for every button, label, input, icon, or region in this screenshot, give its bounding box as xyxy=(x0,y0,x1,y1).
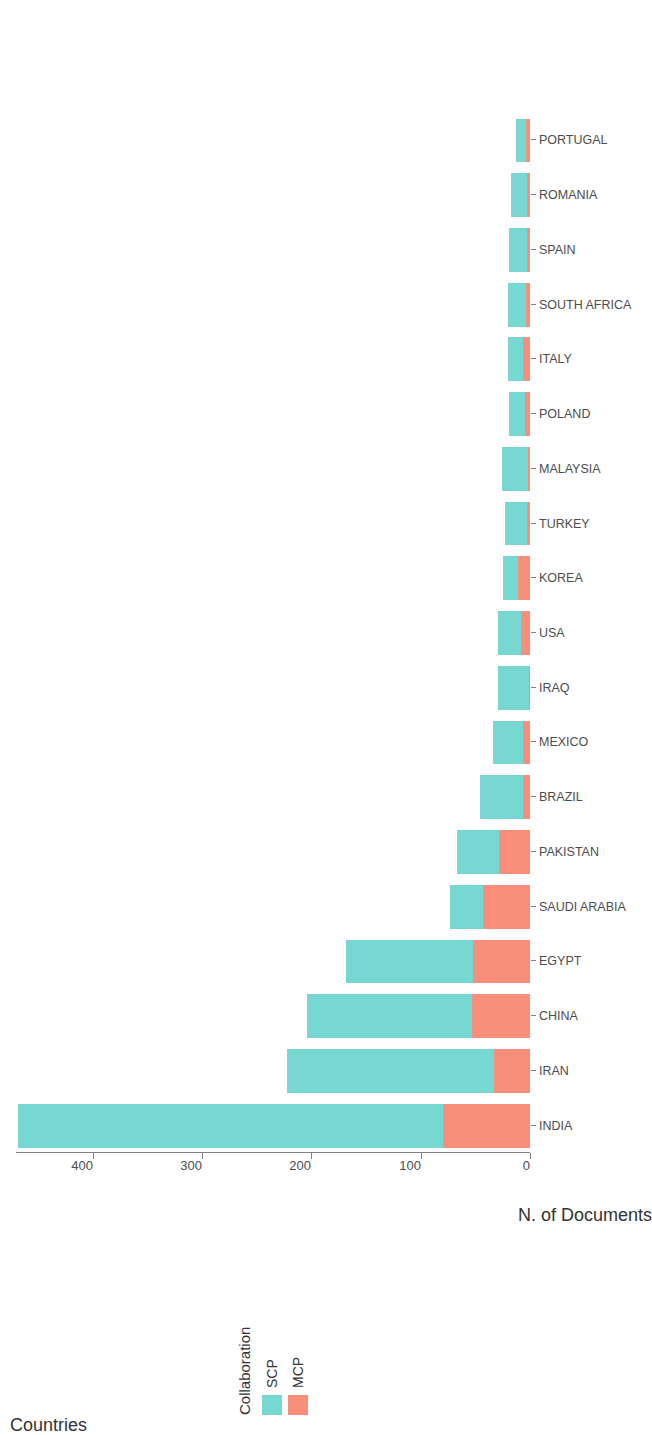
bar-stack[interactable] xyxy=(16,173,530,217)
bar-segment-mcp[interactable] xyxy=(443,1104,530,1148)
bar-slot xyxy=(16,879,530,934)
bar-stack[interactable] xyxy=(16,830,530,874)
bar-stack[interactable] xyxy=(16,666,530,710)
legend-item-mcp[interactable]: MCP xyxy=(288,1357,308,1415)
value-axis-tick xyxy=(530,1153,531,1159)
bar-slot xyxy=(16,1098,530,1153)
category-axis-tick xyxy=(531,741,536,742)
bar-stack[interactable] xyxy=(16,1104,530,1148)
bar-segment-scp[interactable] xyxy=(509,228,526,272)
bar-slot xyxy=(16,223,530,278)
bar-segment-scp[interactable] xyxy=(457,830,500,874)
bar-segment-mcp[interactable] xyxy=(473,940,530,984)
bar-slot xyxy=(16,387,530,442)
category-axis-label: KOREA xyxy=(539,571,583,585)
bar-stack[interactable] xyxy=(16,283,530,327)
bar-stack[interactable] xyxy=(16,775,530,819)
bar-slot xyxy=(16,551,530,606)
bar-segment-mcp[interactable] xyxy=(523,337,530,381)
legend-title: Collaboration xyxy=(236,1327,253,1415)
category-axis-label: IRAQ xyxy=(539,681,570,695)
bar-segment-scp[interactable] xyxy=(307,994,472,1038)
bar-slot xyxy=(16,989,530,1044)
bar-segment-scp[interactable] xyxy=(480,775,524,819)
bar-slot xyxy=(16,441,530,496)
bar-stack[interactable] xyxy=(16,502,530,546)
bar-stack[interactable] xyxy=(16,611,530,655)
bar-segment-scp[interactable] xyxy=(18,1104,442,1148)
bar-segment-mcp[interactable] xyxy=(518,556,530,600)
bar-stack[interactable] xyxy=(16,447,530,491)
bar-segment-mcp[interactable] xyxy=(523,721,530,765)
bar-segment-mcp[interactable] xyxy=(523,775,530,819)
category-axis-label: PORTUGAL xyxy=(539,133,608,147)
category-axis-label: EGYPT xyxy=(539,954,581,968)
category-axis-label: SOUTH AFRICA xyxy=(539,298,631,312)
category-axis-tick xyxy=(531,304,536,305)
bar-stack[interactable] xyxy=(16,940,530,984)
bar-stack[interactable] xyxy=(16,1049,530,1093)
category-axis-tick xyxy=(531,249,536,250)
bar-stack[interactable] xyxy=(16,392,530,436)
category-axis-label: IRAN xyxy=(539,1064,569,1078)
legend-label-mcp: MCP xyxy=(290,1357,306,1388)
bar-segment-mcp[interactable] xyxy=(472,994,530,1038)
category-axis-label: PAKISTAN xyxy=(539,845,599,859)
bar-segment-scp[interactable] xyxy=(503,556,518,600)
category-axis-tick xyxy=(531,1125,536,1126)
bar-stack[interactable] xyxy=(16,556,530,600)
bar-segment-scp[interactable] xyxy=(498,666,529,710)
bar-segment-mcp[interactable] xyxy=(526,283,530,327)
bar-segment-mcp[interactable] xyxy=(521,611,530,655)
category-axis-tick xyxy=(531,139,536,140)
chart-legend: Collaboration SCP MCP xyxy=(236,1327,314,1415)
bar-stack[interactable] xyxy=(16,994,530,1038)
bar-segment-scp[interactable] xyxy=(493,721,524,765)
bar-stack[interactable] xyxy=(16,721,530,765)
bar-segment-scp[interactable] xyxy=(450,885,483,929)
bar-segment-scp[interactable] xyxy=(508,337,523,381)
category-axis-label: CHINA xyxy=(539,1009,578,1023)
bar-stack[interactable] xyxy=(16,119,530,163)
bar-segment-mcp[interactable] xyxy=(527,502,530,546)
bar-segment-scp[interactable] xyxy=(498,611,521,655)
bar-segment-mcp[interactable] xyxy=(525,392,530,436)
value-axis-tick-label: 300 xyxy=(180,1158,202,1173)
category-axis-label: POLAND xyxy=(539,407,590,421)
bar-slot xyxy=(16,770,530,825)
bar-segment-mcp[interactable] xyxy=(529,666,530,710)
bar-segment-scp[interactable] xyxy=(287,1049,494,1093)
bar-segment-scp[interactable] xyxy=(502,447,528,491)
bar-slot xyxy=(16,168,530,223)
category-axis-tick xyxy=(531,632,536,633)
bar-segment-mcp[interactable] xyxy=(526,119,530,163)
legend-item-scp[interactable]: SCP xyxy=(262,1359,282,1415)
bar-segment-scp[interactable] xyxy=(516,119,526,163)
bar-slot xyxy=(16,934,530,989)
bar-segment-mcp[interactable] xyxy=(483,885,530,929)
bar-segment-mcp[interactable] xyxy=(499,830,530,874)
bar-segment-scp[interactable] xyxy=(508,283,525,327)
bar-segment-mcp[interactable] xyxy=(527,173,530,217)
category-axis-label: ROMANIA xyxy=(539,188,597,202)
bar-segment-scp[interactable] xyxy=(511,173,526,217)
category-axis-tick xyxy=(531,796,536,797)
bar-segment-mcp[interactable] xyxy=(528,447,530,491)
bar-stack[interactable] xyxy=(16,228,530,272)
bar-stack[interactable] xyxy=(16,337,530,381)
legend-swatch-mcp xyxy=(288,1395,308,1415)
bar-segment-mcp[interactable] xyxy=(494,1049,530,1093)
value-axis-tick-label: 0 xyxy=(523,1158,530,1173)
bar-stack[interactable] xyxy=(16,885,530,929)
bar-slot xyxy=(16,715,530,770)
bar-segment-scp[interactable] xyxy=(509,392,524,436)
bar-segment-scp[interactable] xyxy=(346,940,473,984)
bar-segment-scp[interactable] xyxy=(505,502,527,546)
category-axis-tick xyxy=(531,358,536,359)
legend-swatch-scp xyxy=(262,1395,282,1415)
category-axis-label: ITALY xyxy=(539,352,572,366)
bar-segment-mcp[interactable] xyxy=(527,228,530,272)
value-axis-tick xyxy=(202,1153,203,1159)
category-axis-label: BRAZIL xyxy=(539,790,583,804)
